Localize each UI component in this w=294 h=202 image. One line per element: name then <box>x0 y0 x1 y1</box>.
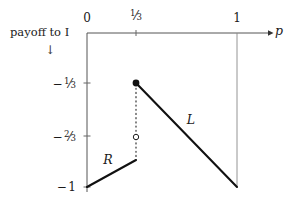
minus-sign-icon: − <box>52 129 62 143</box>
fraction-two-thirds: 2⁄3 <box>64 130 76 143</box>
curve-L <box>136 83 237 187</box>
fraction-one-third: 1⁄3 <box>64 77 76 90</box>
fraction-denominator: 3 <box>137 12 143 22</box>
curve-label-R: R <box>103 154 112 167</box>
minus-sign-icon: − <box>52 76 62 90</box>
fraction-one-third: 1⁄3 <box>130 9 142 22</box>
y-tick-label-neg-two-thirds: −2⁄3 <box>52 130 76 143</box>
payoff-diagram: payoff to I ↓ 0 1⁄3 1 p −1⁄3 −2⁄3 −1 R L <box>0 0 294 202</box>
closed-point-marker <box>133 80 140 87</box>
y-tick-label-neg-one: −1 <box>57 181 76 193</box>
minus-sign-icon: − <box>57 180 67 194</box>
y-tick-label-neg-one-third: −1⁄3 <box>52 77 76 90</box>
x-tick-label-0: 0 <box>83 12 91 24</box>
curve-label-L: L <box>187 114 195 127</box>
y-tick-value-neg-one: 1 <box>68 180 76 194</box>
fraction-denominator: 3 <box>71 133 77 143</box>
open-point-marker <box>133 134 138 139</box>
fraction-denominator: 3 <box>71 80 77 90</box>
payoff-axis-caption: payoff to I <box>10 27 69 39</box>
x-axis-arrowhead <box>268 30 274 36</box>
x-tick-label-one-third: 1⁄3 <box>130 9 142 22</box>
payoff-axis-down-arrow-icon: ↓ <box>45 44 55 56</box>
x-axis-variable-label: p <box>275 25 283 38</box>
x-tick-label-1: 1 <box>233 12 241 24</box>
